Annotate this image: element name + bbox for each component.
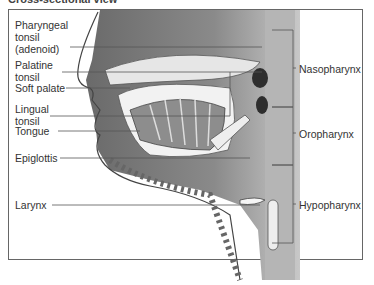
- label-line: Pharyngeal: [15, 19, 68, 31]
- label-hypopharynx: Hypopharynx: [299, 199, 361, 211]
- label-nasopharynx: Nasopharynx: [299, 63, 361, 75]
- palatine-tonsil-shape: [256, 96, 268, 114]
- label-oropharynx: Oropharynx: [299, 128, 354, 140]
- adenoid-shape: [252, 68, 268, 88]
- cartilage: [268, 200, 278, 250]
- label-pharyngeal-tonsil: Pharyngeal tonsil (adenoid): [15, 19, 68, 55]
- label-larynx: Larynx: [15, 199, 47, 211]
- label-line: Epiglottis: [15, 152, 58, 164]
- label-line: Larynx: [15, 199, 47, 211]
- label-soft-palate: Soft palate: [15, 82, 65, 94]
- label-line: Tongue: [15, 125, 49, 137]
- label-line: (adenoid): [15, 43, 68, 55]
- label-line: Lingual: [15, 103, 49, 115]
- label-lingual-tonsil: Lingual tonsil: [15, 103, 49, 127]
- label-line: tonsil: [15, 31, 68, 43]
- label-tongue: Tongue: [15, 125, 49, 137]
- label-epiglottis: Epiglottis: [15, 152, 58, 164]
- label-line: Soft palate: [15, 82, 65, 94]
- label-line: Palatine: [15, 59, 53, 71]
- label-palatine-tonsil: Palatine tonsil: [15, 59, 53, 83]
